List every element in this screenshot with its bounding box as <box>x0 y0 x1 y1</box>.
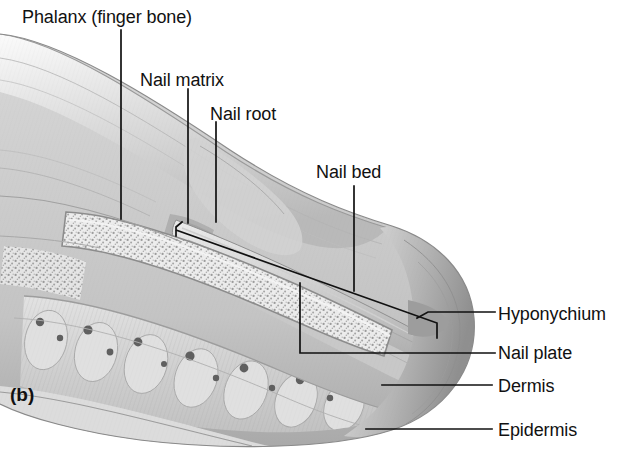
label-epidermis: Epidermis <box>498 421 577 439</box>
label-phalanx: Phalanx (finger bone) <box>22 8 192 26</box>
label-dermis: Dermis <box>498 377 554 395</box>
figure-canvas: Phalanx (finger bone)Nail matrixNail roo… <box>0 0 626 452</box>
label-nail-root: Nail root <box>210 105 276 123</box>
label-nail-plate: Nail plate <box>498 344 572 362</box>
label-nail-matrix: Nail matrix <box>140 71 224 89</box>
label-nail-bed: Nail bed <box>316 163 381 181</box>
panel-label: (b) <box>10 384 34 406</box>
label-hyponychium: Hyponychium <box>498 305 606 323</box>
